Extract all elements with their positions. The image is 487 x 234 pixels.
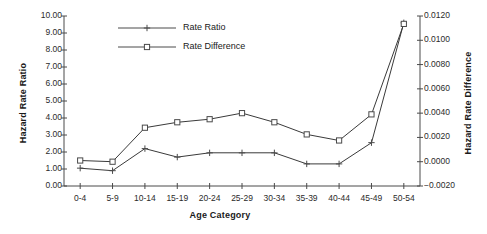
legend-item-rate-ratio: Rate Ratio: [183, 22, 226, 32]
plot-area: [0, 0, 487, 234]
legend-marks: [118, 25, 176, 50]
hazard-rate-chart: Hazard Rate Ratio Hazard Rate Difference…: [0, 0, 487, 234]
legend-item-rate-difference: Rate Difference: [183, 41, 245, 51]
